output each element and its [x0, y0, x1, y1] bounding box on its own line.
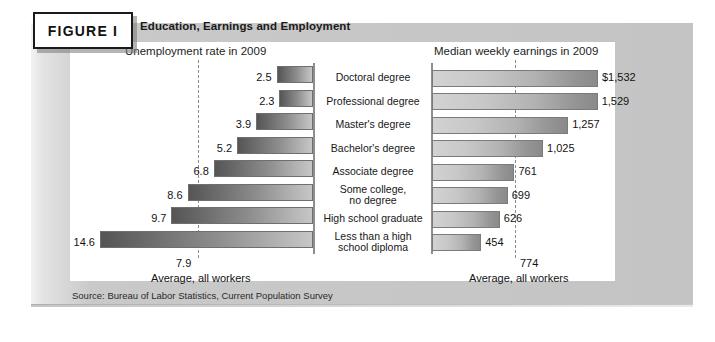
category-label: Professional degree: [315, 90, 431, 114]
unemployment-value-label: 8.6: [150, 187, 183, 204]
unemployment-value-label: 9.7: [133, 210, 166, 227]
unemployment-value-label: 2.5: [239, 69, 272, 86]
source-note: Source: Bureau of Labor Statistics, Curr…: [72, 290, 333, 301]
earnings-bar: [432, 234, 481, 251]
earnings-value-label: $1,532: [602, 69, 636, 86]
chart-row: 5.2Bachelor's degree1,025: [70, 137, 615, 161]
chart-row: 2.3Professional degree1,529: [70, 90, 615, 114]
earnings-bar: [432, 140, 543, 157]
earnings-value-label: 1,025: [547, 140, 575, 157]
unemployment-value-label: 14.6: [62, 234, 95, 251]
earnings-value-label: 1,529: [602, 93, 630, 110]
unemployment-bar: [100, 231, 313, 248]
chart-row: 6.8Associate degree761: [70, 160, 615, 184]
figure-container: FIGURE I Education, Earnings and Employm…: [0, 0, 715, 342]
chart-plate: Unemployment rate in 2009 Median weekly …: [70, 42, 615, 281]
earnings-bar: [432, 164, 514, 181]
earnings-value-label: 454: [485, 234, 503, 251]
earnings-value-label: 626: [504, 210, 522, 227]
left-panel-heading: Unemployment rate in 2009: [125, 45, 266, 57]
unemployment-bar: [256, 113, 313, 130]
unemployment-value-label: 5.2: [199, 140, 232, 157]
chart-row: 9.7High school graduate626: [70, 207, 615, 231]
chart-row: 2.5Doctoral degree$1,532: [70, 66, 615, 90]
unemployment-bar: [277, 66, 313, 83]
category-label: High school graduate: [315, 207, 431, 231]
figure-number-label: FIGURE I: [48, 23, 118, 39]
earnings-bar: [432, 211, 500, 228]
category-label: Associate degree: [315, 160, 431, 184]
figure-number-badge: FIGURE I: [33, 12, 133, 49]
earnings-bar: [432, 187, 508, 204]
earnings-value-label: 761: [518, 163, 536, 180]
right-average-value: 774: [520, 257, 538, 269]
earnings-value-label: 1,257: [572, 116, 600, 133]
chart-row: 3.9Master's degree1,257: [70, 113, 615, 137]
category-label: Some college,no degree: [315, 184, 431, 208]
left-average-value: 7.9: [176, 257, 191, 269]
figure-title: Education, Earnings and Employment: [140, 20, 350, 32]
unemployment-bar: [237, 137, 313, 154]
chart-row: 8.6Some college,no degree699: [70, 184, 615, 208]
category-label: Less than a highschool diploma: [315, 231, 431, 255]
unemployment-bar: [214, 160, 313, 177]
chart-rows: 2.5Doctoral degree$1,5322.3Professional …: [70, 66, 615, 254]
right-average-caption: Average, all workers: [469, 272, 568, 284]
earnings-bar: [432, 93, 598, 110]
unemployment-bar: [279, 90, 313, 107]
right-panel-heading: Median weekly earnings in 2009: [434, 45, 598, 57]
category-label: Bachelor's degree: [315, 137, 431, 161]
unemployment-value-label: 6.8: [176, 163, 209, 180]
unemployment-bar: [188, 184, 313, 201]
unemployment-value-label: 2.3: [241, 93, 274, 110]
category-label: Master's degree: [315, 113, 431, 137]
category-label: Doctoral degree: [315, 66, 431, 90]
unemployment-value-label: 3.9: [218, 116, 251, 133]
earnings-bar: [432, 117, 568, 134]
earnings-bar: [432, 70, 598, 87]
earnings-value-label: 699: [512, 187, 530, 204]
unemployment-bar: [171, 207, 313, 224]
chart-row: 14.6Less than a highschool diploma454: [70, 231, 615, 255]
left-average-caption: Average, all workers: [151, 272, 250, 284]
